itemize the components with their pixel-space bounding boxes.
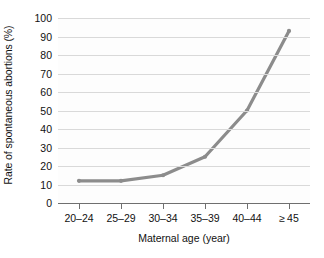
y-axis-tick-label: 50 bbox=[40, 105, 52, 117]
y-axis-tick-label: 0 bbox=[46, 197, 52, 209]
chart-figure: Rate of spontaneous abortions (%) 010203… bbox=[0, 0, 324, 258]
x-axis-tick-label: 35–39 bbox=[190, 212, 219, 224]
x-axis-tick-mark bbox=[79, 204, 80, 209]
x-axis-tick-label: 20–24 bbox=[64, 212, 93, 224]
gridline bbox=[58, 148, 310, 149]
x-axis-tick-mark bbox=[247, 204, 248, 209]
x-axis-tick-label: 40–44 bbox=[232, 212, 261, 224]
x-axis-title: Maternal age (year) bbox=[58, 232, 310, 244]
gridline bbox=[58, 92, 310, 93]
y-axis-tick-label: 90 bbox=[40, 31, 52, 43]
y-axis-tick-label: 80 bbox=[40, 49, 52, 61]
gridline bbox=[58, 55, 310, 56]
data-point bbox=[203, 155, 207, 159]
gridline bbox=[58, 166, 310, 167]
series-polyline bbox=[79, 31, 289, 181]
x-axis-tick-mark bbox=[163, 204, 164, 209]
y-axis-tick-label: 100 bbox=[34, 12, 52, 24]
gridline bbox=[58, 37, 310, 38]
data-point bbox=[287, 29, 291, 33]
y-axis-tick-label: 10 bbox=[40, 179, 52, 191]
y-axis-tick-label: 30 bbox=[40, 142, 52, 154]
y-axis-tick-label: 60 bbox=[40, 86, 52, 98]
x-axis-tick-mark bbox=[205, 204, 206, 209]
data-point bbox=[77, 179, 81, 183]
plot-area bbox=[58, 18, 310, 203]
x-axis-line bbox=[58, 203, 310, 204]
x-axis-tick-mark bbox=[289, 204, 290, 209]
gridline bbox=[58, 185, 310, 186]
data-point bbox=[161, 173, 165, 177]
gridline bbox=[58, 129, 310, 130]
y-axis-tick-labels: 0102030405060708090100 bbox=[16, 0, 56, 258]
x-axis-tick-label: 25–29 bbox=[106, 212, 135, 224]
gridline bbox=[58, 74, 310, 75]
y-axis-tick-label: 40 bbox=[40, 123, 52, 135]
series-markers bbox=[77, 29, 291, 183]
y-axis-tick-label: 70 bbox=[40, 68, 52, 80]
y-axis-tick-label: 20 bbox=[40, 160, 52, 172]
y-axis-title-text: Rate of spontaneous abortions (%) bbox=[2, 26, 14, 185]
x-axis-tick-label: ≥ 45 bbox=[279, 212, 299, 224]
gridline bbox=[58, 111, 310, 112]
y-axis-title: Rate of spontaneous abortions (%) bbox=[0, 0, 16, 210]
x-axis-tick-mark bbox=[121, 204, 122, 209]
data-point bbox=[119, 179, 123, 183]
x-axis-tick-label: 30–34 bbox=[148, 212, 177, 224]
gridline bbox=[58, 18, 310, 19]
